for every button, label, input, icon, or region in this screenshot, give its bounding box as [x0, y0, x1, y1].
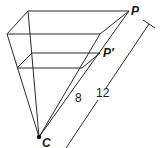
- projection-rays: [7, 11, 129, 137]
- label-distance-8: 8: [75, 91, 82, 105]
- ray-to-front-right: [39, 34, 100, 137]
- dimension-line-12: [66, 20, 155, 148]
- dimension-tick: [143, 20, 155, 28]
- near-frame-left-edge: [17, 53, 32, 68]
- label-P: P: [131, 4, 140, 18]
- perspective-diagram: P P′ C 8 12: [0, 0, 160, 148]
- label-distance-12: 12: [96, 86, 110, 100]
- label-P-prime: P′: [103, 46, 115, 60]
- dimension-line-lower: [66, 100, 98, 148]
- center-point-dot: [37, 135, 41, 139]
- far-frame: [7, 11, 129, 34]
- label-C: C: [42, 136, 51, 148]
- far-frame-left-edge: [7, 11, 28, 34]
